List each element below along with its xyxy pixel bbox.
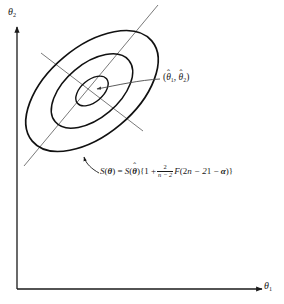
formula-fraction-numerator: 2 [157,164,173,171]
point-label-close-paren: ) [186,72,189,82]
formula-fraction: 2n − 2 [157,164,173,178]
x-axis-label-subscript: 1 [269,285,272,292]
x-axis-label: θ1 [264,280,272,292]
y-axis-label: θ2 [8,6,16,18]
formula-equals: = [117,166,122,176]
center-point-label: (ˆθ1, ˆθ2) [163,72,189,83]
formula-leader [84,157,99,173]
y-axis-label-subscript: 2 [13,11,16,18]
point-label-hat-1: ˆ [167,69,170,78]
inner-contour [70,70,113,111]
formula-close-paren-left: ) [112,166,115,176]
formula-arg-3: 1 − [207,166,221,176]
major-axis-line [24,5,158,166]
formula-arg-2: n − 2 [187,166,207,176]
diagram-canvas [0,0,284,304]
contour-formula-label: S(θ) = S(ˆθ){1 +2n − 2F(2n − 21 − α)} [100,164,233,178]
formula-one: 1 [144,166,149,176]
point-label-hat-2: ˆ [179,69,182,78]
figure-container: θ2 θ1 (ˆθ1, ˆθ2) S(θ) = S(ˆθ){1 +2n − 2F… [0,0,284,304]
formula-fraction-denominator: n − 2 [157,171,173,179]
formula-brace-close: } [229,166,233,176]
outer-contour [4,7,180,175]
formula-plus: + [151,166,156,176]
formula-theta-hat: ˆ [133,163,136,171]
ellipse-axis-lines [24,5,158,166]
contour-group [4,7,180,175]
middle-contour [38,39,146,142]
